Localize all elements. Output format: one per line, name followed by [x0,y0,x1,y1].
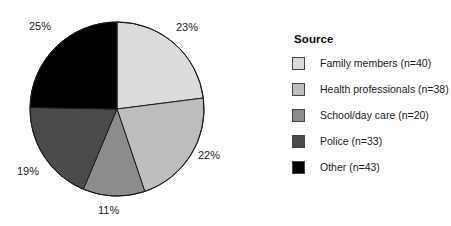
pie-slice-other[interactable] [30,22,117,109]
legend-label-other: Other (n=43) [320,162,380,173]
pie-chart-figure: 25% 23% 22% 11% 19% Source Family member… [0,0,451,226]
pct-label-health-professionals: 22% [198,150,220,161]
legend-swatch-police [292,135,305,148]
legend-label-family-members: Family members (n=40) [320,58,431,69]
legend: Source Family members (n=40) Health prof… [292,34,448,175]
pie-slice-family-members[interactable] [117,22,203,109]
legend-label-school-day-care: School/day care (n=20) [320,110,429,121]
legend-title: Source [294,34,448,46]
legend-swatch-family-members [292,57,305,70]
pct-label-family-members: 23% [176,22,198,33]
legend-swatch-health-professionals [292,83,305,96]
legend-item-school-day-care[interactable]: School/day care (n=20) [292,109,448,123]
legend-swatch-other [292,161,305,174]
legend-item-police[interactable]: Police (n=33) [292,135,448,149]
legend-item-other[interactable]: Other (n=43) [292,161,448,175]
legend-label-police: Police (n=33) [320,136,382,147]
pct-label-police: 19% [17,166,39,177]
pct-label-school-day-care: 11% [98,205,119,216]
pie-svg [0,0,240,226]
legend-item-health-professionals[interactable]: Health professionals (n=38) [292,83,448,97]
pct-label-other: 25% [29,21,51,32]
legend-swatch-school-day-care [292,109,305,122]
legend-label-health-professionals: Health professionals (n=38) [320,84,449,95]
legend-item-family-members[interactable]: Family members (n=40) [292,57,448,71]
pie-plot-area: 25% 23% 22% 11% 19% [0,0,240,226]
